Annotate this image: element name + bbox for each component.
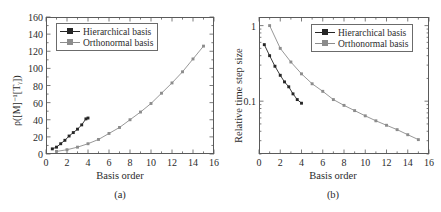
x-tick-label: 4 bbox=[86, 157, 91, 168]
x-tick-label: 2 bbox=[278, 157, 283, 168]
y-tick-label: 160 bbox=[28, 12, 43, 23]
y-tick-label: 0.1 bbox=[244, 96, 257, 107]
legend-item-orthonormal-a: Orthonormal basis bbox=[60, 37, 153, 48]
subplot-caption-a: (a) bbox=[10, 189, 230, 200]
x-tick-label: 10 bbox=[360, 157, 370, 168]
x-tick-label: 8 bbox=[342, 157, 347, 168]
x-tick-label: 14 bbox=[403, 157, 413, 168]
x-tick-label: 10 bbox=[146, 157, 156, 168]
subplot-caption-b: (b) bbox=[223, 189, 441, 200]
x-tick-label: 14 bbox=[188, 157, 198, 168]
legend-item-hierarchical-a: Hierarchical basis bbox=[60, 26, 153, 37]
subplot-a: ρ([M]⁻¹[Tᵧ]) 020406080100120140160 02468… bbox=[0, 0, 220, 212]
y-tick-label: 60 bbox=[33, 97, 43, 108]
x-tick-label: 12 bbox=[382, 157, 392, 168]
x-tick-label: 6 bbox=[107, 157, 112, 168]
legend-label: Hierarchical basis bbox=[335, 28, 406, 38]
x-axis-label-b: Basis order bbox=[223, 170, 441, 181]
legend-label: Hierarchical basis bbox=[80, 27, 151, 37]
y-tick-label: 120 bbox=[28, 46, 43, 57]
line-marker-icon bbox=[315, 27, 335, 38]
y-tick-label: 40 bbox=[33, 114, 43, 125]
x-tick-label: 2 bbox=[65, 157, 70, 168]
legend-label: Orthonormal basis bbox=[335, 39, 408, 49]
x-tick-label: 0 bbox=[44, 157, 49, 168]
figure: ρ([M]⁻¹[Tᵧ]) 020406080100120140160 02468… bbox=[0, 0, 441, 212]
y-tick-label: 0 bbox=[38, 149, 43, 160]
line-marker-icon bbox=[60, 37, 80, 48]
x-tick-label: 0 bbox=[257, 157, 262, 168]
x-tick-label: 6 bbox=[320, 157, 325, 168]
x-tick-label: 4 bbox=[299, 157, 304, 168]
y-tick-label: 100 bbox=[28, 63, 43, 74]
line-marker-icon bbox=[60, 26, 80, 37]
line-marker-icon bbox=[315, 38, 335, 49]
x-tick-label: 12 bbox=[167, 157, 177, 168]
x-axis-label-a: Basis order bbox=[10, 170, 230, 181]
y-tick-label: 140 bbox=[28, 29, 43, 40]
legend-item-orthonormal-b: Orthonormal basis bbox=[315, 38, 408, 49]
x-tick-label: 8 bbox=[128, 157, 133, 168]
legend-a: Hierarchical basis Orthonormal basis bbox=[56, 23, 158, 51]
y-tick-label: 1 bbox=[251, 20, 256, 31]
legend-label: Orthonormal basis bbox=[80, 38, 153, 48]
y-tick-label: 80 bbox=[33, 80, 43, 91]
x-tick-label: 16 bbox=[424, 157, 434, 168]
subplot-b: Relative time step size 10.1 02468101214… bbox=[221, 0, 441, 212]
legend-b: Hierarchical basis Orthonormal basis bbox=[311, 24, 413, 52]
y-tick-label: 20 bbox=[33, 131, 43, 142]
legend-item-hierarchical-b: Hierarchical basis bbox=[315, 27, 408, 38]
x-tick-label: 16 bbox=[209, 157, 219, 168]
